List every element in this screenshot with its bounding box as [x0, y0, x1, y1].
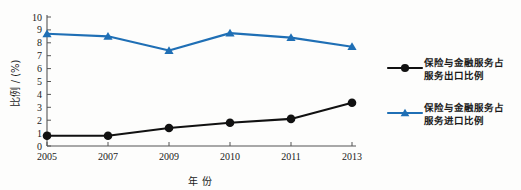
y-tick-label: 9 — [37, 24, 42, 35]
axis-lines — [47, 15, 356, 146]
y-axis-title: 比例 / (%) — [9, 59, 21, 106]
legend-marker-0 — [401, 64, 409, 72]
series-line-0 — [47, 103, 352, 136]
data-point-marker — [165, 124, 174, 133]
data-series-group — [42, 29, 356, 140]
y-axis-tick-labels: 012345678910 — [32, 12, 42, 152]
legend-label-export-line1: 保险与金融服务占 — [424, 57, 504, 70]
y-tick-label: 2 — [37, 115, 42, 126]
y-tick-label: 0 — [37, 141, 42, 152]
y-tick-label: 5 — [37, 76, 42, 87]
line-chart-figure: 012345678910 200520072009201020112013 比例… — [0, 0, 521, 190]
x-tick-label: 2013 — [342, 151, 362, 162]
y-tick-label: 4 — [37, 89, 42, 100]
data-point-marker — [226, 118, 235, 127]
x-axis-title: 年 份 — [188, 175, 211, 187]
data-point-marker — [287, 115, 296, 124]
x-tick-label: 2009 — [159, 151, 179, 162]
y-tick-label: 6 — [37, 63, 42, 74]
legend-label-import: 保险与金融服务占 服务进口比例 — [424, 102, 504, 128]
legend-label-export-line2: 服务出口比例 — [424, 70, 504, 83]
y-tick-label: 8 — [37, 37, 42, 48]
data-point-marker — [348, 98, 357, 107]
legend-label-import-line2: 服务进口比例 — [424, 115, 504, 128]
data-point-marker — [43, 131, 52, 140]
legend-label-export: 保险与金融服务占 服务出口比例 — [424, 57, 504, 83]
x-tick-label: 2011 — [281, 151, 301, 162]
data-point-marker — [104, 131, 113, 140]
x-tick-label: 2007 — [98, 151, 118, 162]
x-tick-label: 2010 — [220, 151, 240, 162]
chart-canvas: 012345678910 200520072009201020112013 比例… — [0, 0, 521, 190]
y-tick-label: 7 — [37, 50, 42, 61]
y-tick-label: 3 — [37, 102, 42, 113]
y-tick-label: 10 — [32, 12, 42, 23]
x-tick-label: 2005 — [37, 151, 57, 162]
legend-markers — [388, 64, 422, 116]
legend-label-import-line1: 保险与金融服务占 — [424, 102, 504, 115]
series-line-1 — [47, 33, 352, 50]
x-axis-tick-labels: 200520072009201020112013 — [37, 151, 362, 162]
y-tick-label: 1 — [37, 128, 42, 139]
